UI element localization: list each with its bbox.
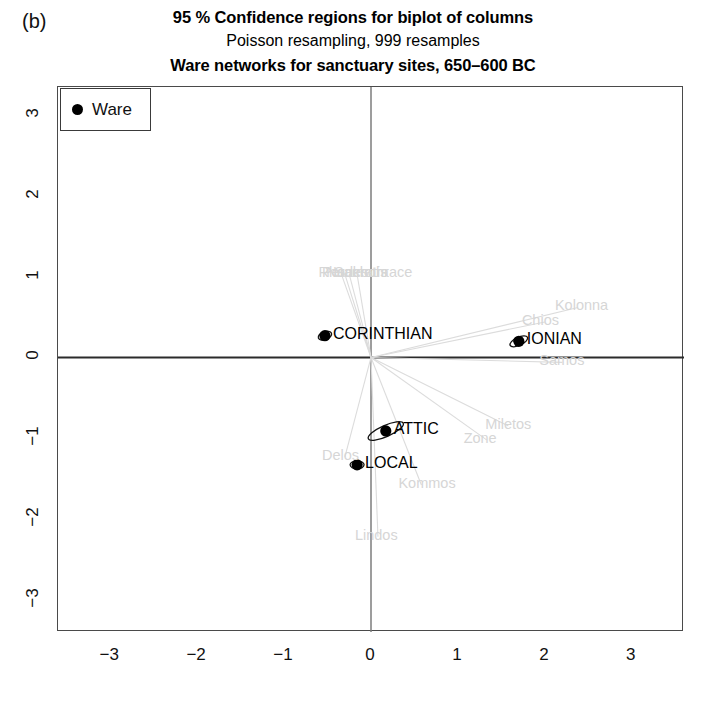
ware-point-marker [513,336,524,347]
site-label: Delos [322,447,359,463]
biplot-ray [345,357,371,456]
x-tick-label: 2 [524,645,564,665]
chart-legend: Ware [60,88,151,131]
site-label: Zone [464,430,497,446]
y-tick-label: −1 [23,416,43,456]
site-label: Lindos [355,527,398,543]
site-label: Chios [522,312,559,328]
y-tick-label: 3 [23,93,43,133]
y-tick-label: −2 [23,497,43,537]
chart-title-line3: Ware networks for sanctuary sites, 650–6… [0,56,706,75]
chart-title-line2: Poisson resampling, 999 resamples [0,32,706,50]
x-tick-label: −2 [176,645,216,665]
figure-panel: (b) 95 % Confidence regions for biplot o… [0,0,706,719]
ware-point-marker [319,330,330,341]
y-tick-label: 1 [23,255,43,295]
x-tick-label: 3 [611,645,651,665]
biplot-ray [349,274,371,357]
x-tick-label: 0 [350,645,390,665]
x-tick-label: −3 [89,645,129,665]
ware-point-label: CORINTHIAN [333,325,433,343]
legend-marker-icon [72,104,83,115]
plot-area [57,86,683,631]
site-label: Kolonna [555,297,608,313]
biplot-ray [371,357,378,536]
y-tick-label: −3 [23,578,43,618]
x-tick-label: 1 [437,645,477,665]
site-label: Samothrace [334,264,412,280]
legend-entry-label: Ware [92,100,132,120]
y-tick-label: 2 [23,174,43,214]
ware-point-marker [380,425,391,436]
y-tick-label: 0 [23,335,43,375]
chart-title-line1: 95 % Confidence regions for biplot of co… [0,8,706,27]
site-label: Kommos [398,475,455,491]
x-tick-label: −1 [263,645,303,665]
ware-point-label: LOCAL [365,454,417,472]
ware-point-label: ATTIC [394,420,439,438]
biplot-ray [341,274,371,357]
biplot-ray [357,274,371,357]
site-label: Samos [539,352,584,368]
plot-svg [58,87,684,632]
ware-point-label: IONIAN [527,330,582,348]
